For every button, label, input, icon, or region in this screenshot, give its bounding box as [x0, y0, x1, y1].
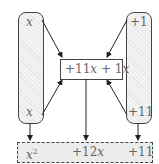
left-pill-bottom-label: x — [26, 106, 33, 118]
coef-12: +12 — [72, 145, 97, 159]
var-x: x — [26, 148, 33, 162]
right-pill-bottom-label: +11 — [128, 106, 153, 118]
result-11: +11 — [128, 146, 153, 158]
plus: + — [97, 62, 115, 76]
right-pill-top-label: +1 — [130, 16, 148, 28]
cross-product-label: +11x + 1x — [65, 63, 129, 75]
result-12x: +12x — [72, 146, 104, 158]
var-x: x — [122, 62, 129, 76]
var-x: x — [97, 145, 104, 159]
left-pill-top-label: x — [26, 16, 33, 28]
result-x-squared: x2 — [26, 146, 38, 161]
exponent: 2 — [33, 147, 38, 156]
term-11: +11 — [65, 62, 90, 76]
